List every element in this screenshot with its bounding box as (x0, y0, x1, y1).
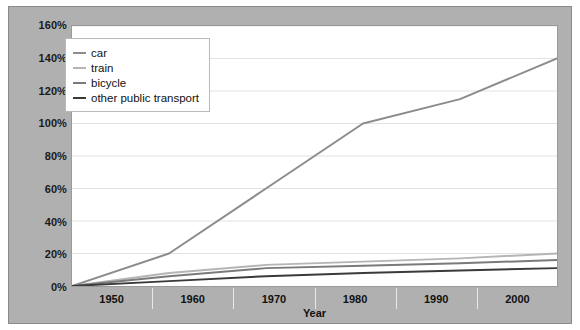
legend-swatch-icon (73, 52, 86, 54)
legend-swatch-icon (73, 82, 86, 84)
x-axis-separator (152, 288, 153, 309)
y-tick-40%: 40% (45, 216, 67, 228)
y-tick-60%: 60% (45, 183, 67, 195)
x-axis-separator (477, 288, 478, 309)
y-tick-140%: 140% (38, 52, 67, 64)
y-axis-tick-labels: 0%20%40%60%80%100%120%140%160% (17, 25, 71, 287)
y-tick-120%: 120% (38, 85, 67, 97)
legend-swatch-icon (73, 67, 86, 69)
x-tick-1990: 1990 (396, 288, 477, 309)
legend-item-label: train (91, 62, 113, 74)
chart-screenshot: 0%20%40%60%80%100%120%140%160% 195019601… (0, 0, 580, 330)
legend-item-label: car (91, 47, 107, 59)
x-tick-2000: 2000 (477, 288, 558, 309)
y-tick-100%: 100% (38, 117, 67, 129)
y-tick-0%: 0% (51, 281, 67, 293)
chart-legend: cartrainbicycleother public transport (65, 38, 210, 112)
x-axis-band: 195019601970198019902000 (71, 288, 558, 309)
legend-item-label: other public transport (91, 92, 199, 104)
legend-item-car: car (73, 45, 199, 60)
x-axis-separator (233, 288, 234, 309)
y-tick-20%: 20% (45, 248, 67, 260)
x-tick-1970: 1970 (233, 288, 314, 309)
x-tick-1960: 1960 (152, 288, 233, 309)
chart-plate: 0%20%40%60%80%100%120%140%160% 195019601… (8, 6, 572, 324)
x-tick-1980: 1980 (315, 288, 396, 309)
y-tick-80%: 80% (45, 150, 67, 162)
y-tick-160%: 160% (38, 19, 67, 31)
legend-item-other-public-transport: other public transport (73, 90, 199, 105)
x-axis-separator (396, 288, 397, 309)
x-axis-separator (315, 288, 316, 309)
legend-item-train: train (73, 60, 199, 75)
x-axis-title: Year (71, 307, 558, 319)
legend-item-bicycle: bicycle (73, 75, 199, 90)
legend-swatch-icon (73, 97, 86, 99)
legend-item-label: bicycle (91, 77, 126, 89)
x-tick-1950: 1950 (71, 288, 152, 309)
